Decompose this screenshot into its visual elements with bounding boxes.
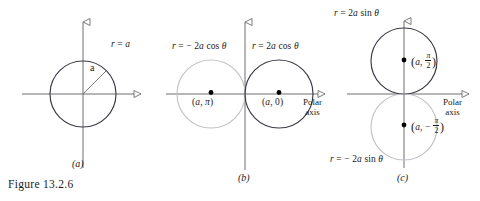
figure-graphics <box>0 0 480 201</box>
panel-a-radius-segment <box>83 71 107 95</box>
panel-c-center-point-a-pi-over-2 <box>402 58 407 63</box>
panel-b-equation-2a-cos-theta: r = 2a cos θ <box>252 42 299 52</box>
panel-b-tag: (b) <box>238 172 250 183</box>
symbol-cos: cos <box>278 41 291 51</box>
fraction-pi-over-2: π2 <box>433 117 439 135</box>
panel-c-tag: (c) <box>397 172 408 183</box>
panel-a-radius-label: a <box>90 63 95 74</box>
paren-close: ) <box>210 97 213 107</box>
fraction-denominator-two: 2 <box>425 62 431 70</box>
panel-b-point-label-a-zero: (a, 0) <box>262 98 283 108</box>
paren-close: ) <box>432 55 436 69</box>
panel-b-equation-negative-2a-cos-theta: r = − 2a cos θ <box>172 42 227 52</box>
figure-13-2-6: r = a a (a) Figure 13.2.6 r = − 2a cos θ… <box>0 0 480 201</box>
panel-c-point-label-a-negative-pi-over-2: (a, − π2) <box>411 117 444 135</box>
figure-caption: Figure 13.2.6 <box>8 178 74 190</box>
panel-a-tag: (a) <box>72 158 84 169</box>
panel-c-graphics <box>347 21 462 168</box>
polar-axis-line2: axis <box>305 107 320 117</box>
symbol-equals: = <box>334 154 344 164</box>
fraction-numerator-pi: π <box>425 52 431 60</box>
paren-close: ) <box>440 120 444 134</box>
symbol-sin: sin <box>360 8 371 18</box>
panel-b-center-point-a-zero <box>277 90 282 95</box>
paren-close: ) <box>280 97 283 107</box>
symbol-a: a <box>125 39 130 49</box>
symbol-equals: = <box>256 41 266 51</box>
symbol-comma: , <box>420 57 425 67</box>
panel-c-equation-negative-2a-sin-theta: r = − 2a sin θ <box>330 155 383 165</box>
panel-c-point-label-a-pi-over-2: (a, π2) <box>411 52 436 70</box>
fraction-denominator-two: 2 <box>433 127 439 135</box>
panel-b-polar-axis-label: Polar axis <box>303 98 322 117</box>
fraction-pi-over-2: π2 <box>425 52 431 70</box>
symbol-theta: θ <box>374 8 379 18</box>
symbol-theta: θ <box>222 41 227 51</box>
symbol-cos: cos <box>206 41 219 51</box>
polar-axis-line1: Polar <box>303 97 322 107</box>
symbol-theta: θ <box>294 41 299 51</box>
symbol-equals: = <box>338 8 348 18</box>
panel-c-equation-2a-sin-theta: r = 2a sin θ <box>334 9 379 19</box>
symbol-equals: = <box>176 41 186 51</box>
panel-c-polar-axis-label: Polar axis <box>443 98 462 117</box>
symbol-theta: θ <box>378 154 383 164</box>
panel-b-point-label-a-pi: (a, π) <box>192 98 213 108</box>
panel-c-center-point-a-negative-pi-over-2 <box>402 123 407 128</box>
symbol-equals-a: = <box>115 39 125 49</box>
fraction-numerator-pi: π <box>433 117 439 125</box>
symbol-sin: sin <box>364 154 375 164</box>
panel-a-equation-r-equals-a: r = a <box>111 40 130 50</box>
panel-b-center-point-a-pi <box>209 90 214 95</box>
polar-axis-line2: axis <box>445 107 460 117</box>
polar-axis-line1: Polar <box>443 97 462 107</box>
